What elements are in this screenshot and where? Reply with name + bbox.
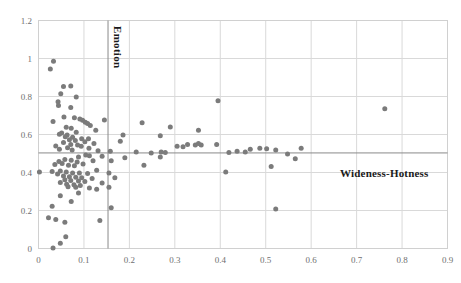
x-axis-tick-label: 0.7 (351, 255, 362, 265)
y-axis-tick-label: 0.4 (8, 168, 32, 178)
x-axis-tick-label: 0.4 (215, 255, 226, 265)
emotion-annotation-label: Emotion (112, 26, 124, 68)
x-axis-tick-label: 0.9 (442, 255, 453, 265)
y-axis-tick-label: 0.6 (8, 130, 32, 140)
x-axis-tick-label: 0.5 (260, 255, 271, 265)
data-points (37, 59, 387, 251)
x-axis-tick-label: 0.1 (78, 255, 89, 265)
x-axis-tick-label: 0 (36, 255, 41, 265)
x-axis-tick-label: 0.2 (124, 255, 135, 265)
scatter-chart: 00.20.40.60.811.200.10.20.30.40.50.60.70… (0, 0, 461, 283)
plot-surface (0, 0, 461, 283)
gridlines (39, 21, 448, 249)
x-axis-tick-label: 0.8 (396, 255, 407, 265)
y-axis-tick-label: 0.2 (8, 206, 32, 216)
x-axis-tick-label: 0.3 (169, 255, 180, 265)
x-axis-tick-label: 0.6 (306, 255, 317, 265)
wideness-hotness-annotation-label: Wideness-Hotness (340, 167, 429, 179)
y-axis-tick-label: 1 (8, 54, 32, 64)
y-axis-tick-label: 0 (8, 244, 32, 254)
y-axis-tick-label: 1.2 (8, 16, 32, 26)
y-axis-tick-label: 0.8 (8, 92, 32, 102)
